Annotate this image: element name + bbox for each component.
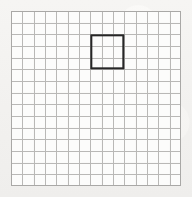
grid-cell (136, 93, 147, 105)
grid-container (11, 11, 181, 186)
grid-cell (68, 58, 79, 70)
grid-cell (45, 174, 56, 186)
grid-cell (22, 81, 33, 93)
grid-cell (56, 174, 67, 186)
grid-cell (22, 34, 33, 46)
grid-cell (124, 58, 135, 70)
grid-cell (102, 116, 113, 128)
grid-cell (79, 23, 90, 35)
grid-cell (158, 46, 169, 58)
grid-cell (68, 104, 79, 116)
grid-cell (124, 116, 135, 128)
grid-cell (102, 93, 113, 105)
grid-cell (11, 139, 22, 151)
grid-cell (45, 128, 56, 140)
grid-cell (124, 46, 135, 58)
grid-cell (90, 174, 101, 186)
grid-cell (158, 151, 169, 163)
grid-cell (147, 104, 158, 116)
grid-cell (11, 93, 22, 105)
grid-cell (102, 23, 113, 35)
grid-cell (90, 128, 101, 140)
grid-cell (124, 81, 135, 93)
grid-cell (45, 163, 56, 175)
grid-cell (113, 104, 124, 116)
grid-cell (102, 151, 113, 163)
grid-cell (11, 23, 22, 35)
grid-cell (113, 128, 124, 140)
grid-cell (136, 128, 147, 140)
grid-cell (68, 81, 79, 93)
grid-cell (158, 139, 169, 151)
grid-cell (90, 139, 101, 151)
grid-cell (22, 139, 33, 151)
grid-cell (170, 11, 181, 23)
grid-cell (11, 128, 22, 140)
grid-cell (147, 34, 158, 46)
grid-cell (34, 104, 45, 116)
grid-cell (45, 23, 56, 35)
grid-cell (22, 104, 33, 116)
grid-cell (158, 69, 169, 81)
grid-cell (113, 139, 124, 151)
grid-cell (136, 58, 147, 70)
grid-cell (68, 151, 79, 163)
grid-cell (90, 104, 101, 116)
grid-cell (68, 34, 79, 46)
grid-cell (56, 81, 67, 93)
grid-cell (45, 81, 56, 93)
grid-cell (34, 69, 45, 81)
grid-cell (136, 34, 147, 46)
grid-cell (124, 139, 135, 151)
grid-cell (102, 163, 113, 175)
grid-cell (136, 104, 147, 116)
grid-cell (136, 139, 147, 151)
grid-cell (113, 81, 124, 93)
grid-cell (158, 58, 169, 70)
grid-cell (102, 174, 113, 186)
grid-cell (170, 34, 181, 46)
grid-cell (170, 46, 181, 58)
grid-cell (90, 23, 101, 35)
grid-cell (90, 151, 101, 163)
grid-cell (45, 151, 56, 163)
grid-cell (79, 69, 90, 81)
grid-cell (158, 93, 169, 105)
grid-cell (136, 69, 147, 81)
grid-cell (136, 174, 147, 186)
grid-cell (158, 104, 169, 116)
grid-cell (11, 151, 22, 163)
grid-cell (11, 11, 22, 23)
grid-cell (22, 151, 33, 163)
grid-cell (22, 116, 33, 128)
grid-cell (102, 11, 113, 23)
grid-cell (113, 69, 124, 81)
grid-cell (11, 46, 22, 58)
grid-cell (68, 116, 79, 128)
grid-cell (124, 93, 135, 105)
grid-cell (34, 151, 45, 163)
grid-cell (147, 93, 158, 105)
grid-cell (170, 163, 181, 175)
grid-cell (22, 46, 33, 58)
grid-cell (22, 128, 33, 140)
grid-cell (136, 151, 147, 163)
grid-cell (68, 128, 79, 140)
grid-cell (22, 23, 33, 35)
grid-cell (79, 128, 90, 140)
grid-cell (136, 23, 147, 35)
grid-cell (56, 104, 67, 116)
grid-cell (147, 174, 158, 186)
grid-cell (113, 174, 124, 186)
grid-cell (113, 151, 124, 163)
grid-cell (68, 163, 79, 175)
grid-cell (147, 128, 158, 140)
grid-cell (11, 174, 22, 186)
grid-cell (45, 116, 56, 128)
grid-cell (90, 11, 101, 23)
grid-cell (147, 69, 158, 81)
grid-cell (11, 58, 22, 70)
grid-cell (22, 93, 33, 105)
grid-cell (11, 104, 22, 116)
grid-cell (79, 93, 90, 105)
